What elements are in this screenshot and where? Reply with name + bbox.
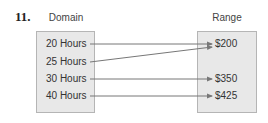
mapping-arrows <box>0 0 268 123</box>
arrow-25-hours-to-200 <box>90 47 212 62</box>
